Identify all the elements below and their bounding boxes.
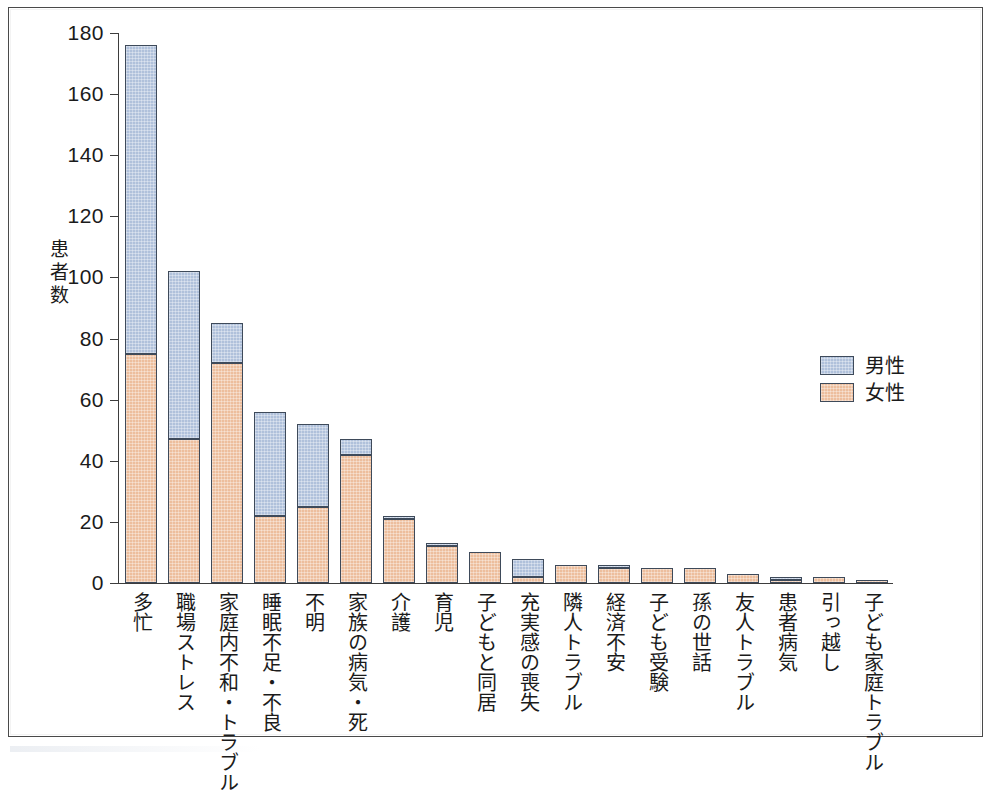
- bar-segment-female[interactable]: [684, 568, 716, 583]
- bar-segment-female[interactable]: [641, 568, 673, 583]
- y-axis-tick-label: 120: [52, 205, 104, 226]
- legend-label: 女性: [865, 383, 905, 403]
- y-axis-tick: [110, 522, 118, 523]
- bar-segment-female[interactable]: [512, 577, 544, 583]
- x-axis-label: 孫の世話: [689, 592, 711, 672]
- bar-group[interactable]: [426, 543, 458, 583]
- y-axis-tick-label: 60: [52, 389, 104, 410]
- x-axis-label: 子ども家庭トラブル: [861, 592, 883, 772]
- bar-segment-female[interactable]: [770, 580, 802, 583]
- y-axis-title-char: 数: [48, 284, 70, 307]
- scan-artifact: [10, 746, 260, 752]
- bar-segment-female[interactable]: [297, 507, 329, 583]
- bar-segment-female[interactable]: [125, 354, 157, 583]
- bar-segment-male[interactable]: [426, 543, 458, 546]
- bar-segment-male[interactable]: [340, 439, 372, 454]
- bar-segment-female[interactable]: [856, 580, 888, 583]
- bar-group[interactable]: [297, 424, 329, 583]
- bar-segment-male[interactable]: [254, 412, 286, 516]
- bar-group[interactable]: [555, 565, 587, 583]
- chart-legend: 男性女性: [820, 352, 905, 406]
- bar-group[interactable]: [383, 516, 415, 583]
- y-axis-tick-label: 20: [52, 511, 104, 532]
- y-axis-tick: [110, 155, 118, 156]
- y-axis-tick: [110, 400, 118, 401]
- bar-group[interactable]: [598, 565, 630, 583]
- y-axis-tick-label: 80: [52, 328, 104, 349]
- y-axis-tick: [110, 339, 118, 340]
- bar-segment-female[interactable]: [168, 439, 200, 583]
- x-axis-line: [118, 583, 893, 584]
- x-axis-label: 友人トラブル: [732, 592, 754, 712]
- bar-segment-male[interactable]: [211, 323, 243, 363]
- x-axis-label: 睡眠不足・不良: [259, 592, 281, 732]
- y-axis-title-char: 患: [48, 238, 70, 261]
- x-axis-label: 育児: [431, 592, 453, 632]
- bar-group[interactable]: [641, 568, 673, 583]
- x-axis-label: 隣人トラブル: [560, 592, 582, 712]
- y-axis-tick: [110, 33, 118, 34]
- bar-group[interactable]: [813, 577, 845, 583]
- y-axis-tick: [110, 216, 118, 217]
- bar-group[interactable]: [254, 412, 286, 583]
- bar-group[interactable]: [168, 271, 200, 583]
- legend-swatch-female: [820, 383, 854, 402]
- bar-segment-female[interactable]: [598, 568, 630, 583]
- bar-segment-male[interactable]: [125, 45, 157, 354]
- bar-segment-female[interactable]: [254, 516, 286, 583]
- y-axis-tick: [110, 94, 118, 95]
- x-axis-label: 不明: [302, 592, 324, 632]
- y-axis-tick-label: 180: [52, 22, 104, 43]
- x-axis-label: 子どもと同居: [474, 592, 496, 712]
- y-axis-tick: [110, 461, 118, 462]
- bar-group[interactable]: [770, 577, 802, 583]
- legend-item[interactable]: 男性: [820, 352, 905, 379]
- bar-segment-male[interactable]: [297, 424, 329, 507]
- y-axis-tick-label: 0: [52, 572, 104, 593]
- x-axis-label: 患者病気: [775, 592, 797, 672]
- legend-label: 男性: [865, 356, 905, 376]
- bar-group[interactable]: [727, 574, 759, 583]
- bar-segment-female[interactable]: [813, 577, 845, 583]
- bar-group[interactable]: [684, 568, 716, 583]
- x-axis-label: 家族の病気・死: [345, 592, 367, 732]
- bar-segment-female[interactable]: [383, 519, 415, 583]
- bar-segment-female[interactable]: [727, 574, 759, 583]
- bar-group[interactable]: [856, 580, 888, 583]
- bar-segment-female[interactable]: [340, 455, 372, 583]
- legend-swatch-male: [820, 356, 854, 375]
- x-axis-label: 職場ストレス: [173, 592, 195, 712]
- bar-segment-male[interactable]: [168, 271, 200, 439]
- x-axis-label: 多忙: [130, 592, 152, 632]
- y-axis-tick-label: 160: [52, 83, 104, 104]
- bar-segment-male[interactable]: [770, 577, 802, 580]
- y-axis-tick: [110, 583, 118, 584]
- bar-segment-male[interactable]: [383, 516, 415, 519]
- y-axis-line: [118, 33, 119, 584]
- y-axis-tick-label: 140: [52, 144, 104, 165]
- y-axis-tick-label: 40: [52, 450, 104, 471]
- y-axis-tick: [110, 277, 118, 278]
- x-axis-label: 子ども受験: [646, 592, 668, 692]
- bar-segment-male[interactable]: [512, 559, 544, 577]
- bar-group[interactable]: [340, 439, 372, 583]
- bar-group[interactable]: [125, 45, 157, 583]
- x-axis-label: 家庭内不和・トラブル: [216, 592, 238, 792]
- bar-group[interactable]: [469, 552, 501, 583]
- bar-segment-female[interactable]: [211, 363, 243, 583]
- bar-group[interactable]: [211, 323, 243, 583]
- bar-group[interactable]: [512, 559, 544, 583]
- bar-segment-male[interactable]: [598, 565, 630, 568]
- legend-item[interactable]: 女性: [820, 379, 905, 406]
- x-axis-label: 経済不安: [603, 592, 625, 672]
- x-axis-label: 介護: [388, 592, 410, 632]
- bar-segment-female[interactable]: [426, 546, 458, 583]
- y-axis-title-char: 者: [48, 261, 70, 284]
- bar-segment-female[interactable]: [555, 565, 587, 583]
- x-axis-label: 引っ越し: [818, 592, 840, 672]
- bar-segment-female[interactable]: [469, 552, 501, 583]
- y-axis-title: 患者数: [48, 238, 70, 307]
- x-axis-label: 充実感の喪失: [517, 592, 539, 712]
